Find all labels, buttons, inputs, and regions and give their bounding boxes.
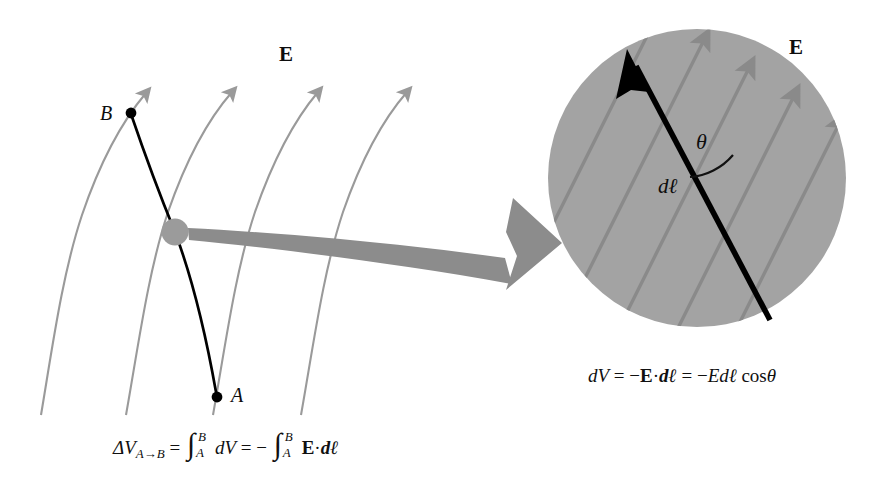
main-equation: ΔVA→B = ∫ B A dV = − ∫ B A E·dℓ bbox=[113, 438, 338, 460]
dl-label: dℓ bbox=[658, 176, 677, 197]
main-eq-vector-e: E bbox=[302, 437, 315, 458]
path-b-to-a bbox=[131, 114, 216, 392]
inset-eq-minus-1: − bbox=[629, 365, 640, 386]
integral-2-upper: B bbox=[285, 430, 293, 443]
main-eq-integral-2: ∫ B A bbox=[272, 438, 302, 457]
field-line-3 bbox=[213, 92, 318, 415]
main-eq-equals-1: = bbox=[169, 437, 180, 458]
integral-1-lower: A bbox=[196, 446, 204, 459]
main-eq-integral-1: ∫ B A bbox=[185, 438, 215, 457]
inset-eq-d: d bbox=[719, 365, 729, 386]
point-b-dot bbox=[126, 108, 137, 119]
inset-eq-ell: ℓ bbox=[729, 365, 737, 386]
main-eq-delta-v: ΔV bbox=[113, 437, 136, 458]
main-eq-dv: dV bbox=[215, 437, 236, 458]
point-a-dot bbox=[212, 392, 223, 403]
magnified-element-dot bbox=[162, 219, 189, 246]
inset-eq-theta: θ bbox=[767, 365, 776, 386]
inset-eq-e-mag: E bbox=[708, 365, 720, 386]
integral-sign-1: ∫ bbox=[187, 429, 195, 459]
callout-arrow bbox=[188, 198, 562, 290]
inset-eq-equals-1: = bbox=[614, 365, 625, 386]
inset-eq-equals-2: = bbox=[681, 365, 692, 386]
field-label-left: E bbox=[279, 44, 293, 65]
inset-eq-vector-e: E bbox=[640, 365, 653, 386]
field-line-1 bbox=[41, 93, 146, 415]
callout-arrow-ribbon bbox=[188, 228, 512, 284]
inset-eq-lhs: dV bbox=[588, 365, 609, 386]
integral-1-upper: B bbox=[198, 430, 206, 443]
main-eq-minus: − bbox=[256, 437, 267, 458]
charge-path-group bbox=[126, 108, 223, 403]
point-b-label: B bbox=[100, 103, 112, 123]
diagram-vector-layer bbox=[0, 0, 884, 494]
figure-canvas: E B A E θ dℓ dV = −E·dℓ = −Edℓ cosθ ΔVA→… bbox=[0, 0, 884, 494]
point-a-label: A bbox=[231, 385, 243, 405]
main-eq-dl: dℓ bbox=[321, 437, 339, 458]
integral-sign-2: ∫ bbox=[274, 429, 282, 459]
field-label-inset: E bbox=[789, 37, 803, 58]
inset-equation: dV = −E·dℓ = −Edℓ cosθ bbox=[588, 366, 776, 385]
theta-label: θ bbox=[696, 131, 707, 153]
integral-2-lower: A bbox=[283, 446, 291, 459]
inset-eq-dl: dℓ bbox=[659, 365, 677, 386]
field-line-2 bbox=[126, 92, 232, 415]
inset-eq-cos: cos bbox=[741, 365, 766, 386]
inset-eq-minus-2: − bbox=[697, 365, 708, 386]
main-eq-subscript: A→B bbox=[136, 446, 165, 461]
main-eq-equals-2: = bbox=[241, 437, 252, 458]
